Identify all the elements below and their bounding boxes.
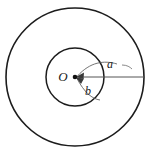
center-point-dot [73,75,78,80]
figure-container: O a b [0,0,146,157]
outer-radius-label-a: a [107,57,113,71]
center-label-O: O [58,69,68,84]
inner-radius-label-b: b [85,84,91,98]
leader-tail-a [122,65,132,69]
concentric-circles-diagram: O a b [0,0,146,157]
